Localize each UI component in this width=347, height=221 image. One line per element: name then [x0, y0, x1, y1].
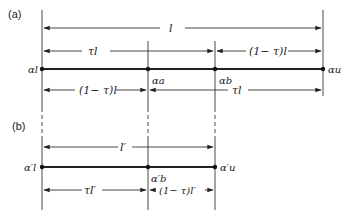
dim-l: l	[169, 22, 173, 35]
panel-b-label: (b)	[12, 120, 25, 132]
label-alpha-prime-b: α′b	[151, 173, 166, 184]
point-alpha-prime-b	[146, 165, 150, 169]
panel-a-dimension-arrows	[44, 28, 321, 90]
point-alpha-b	[213, 67, 217, 71]
point-alpha-a	[146, 67, 150, 71]
point-alpha-u	[321, 67, 325, 71]
label-alpha-u: αu	[328, 64, 341, 75]
panel-b-dimension-arrows	[44, 147, 213, 190]
label-alpha-b: αb	[219, 75, 232, 86]
dim-tau-l-upper: τl	[88, 45, 98, 58]
dim-tau-l-prime: τl′	[84, 184, 97, 197]
label-alpha-a: αa	[152, 75, 165, 86]
label-alpha-prime-u: α′u	[220, 162, 235, 173]
point-alpha-prime-u	[213, 165, 217, 169]
point-alpha-l	[40, 67, 44, 71]
panel-a-label: (a)	[8, 8, 21, 20]
dim-l-prime: l′	[120, 141, 127, 154]
label-alpha-prime-l: α′l	[24, 162, 36, 173]
panel-b-extension-lines	[42, 140, 215, 210]
dim-one-minus-tau-l-lower: (1− τ)l	[79, 84, 117, 97]
dashed-connectors	[42, 108, 215, 140]
point-alpha-prime-l	[40, 165, 44, 169]
golden-section-diagram: (a) l τl (1− τ)l (1− τ)l τl αl αa αb αu …	[0, 0, 347, 221]
label-alpha-l: αl	[28, 64, 38, 75]
dim-one-minus-tau-l-upper: (1− τ)l	[249, 45, 287, 58]
dim-one-minus-tau-l-prime: (1− τ)l′	[159, 185, 196, 196]
dim-tau-l-lower: τl	[232, 84, 242, 97]
